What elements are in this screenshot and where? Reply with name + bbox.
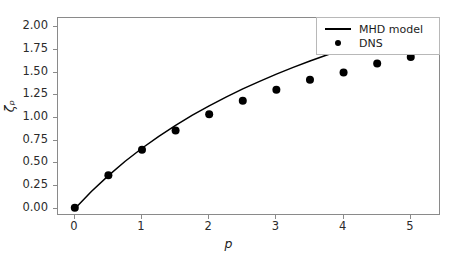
dot-swatch-icon [323, 40, 353, 47]
legend-label-mhd-model: MHD model [353, 24, 423, 35]
y-tick-mark [53, 140, 57, 141]
y-tick-label: 1.50 [22, 66, 48, 78]
y-tick-label: 2.00 [22, 20, 48, 32]
x-tick-label: 0 [59, 221, 89, 233]
y-tick-label: 0.00 [22, 202, 48, 214]
y-tick-mark [53, 26, 57, 27]
y-tick-mark [53, 49, 57, 50]
dns-point [272, 86, 280, 94]
y-axis-label: ζₚ [4, 100, 17, 112]
chart-figure: 0.000.250.500.751.001.251.501.752.00 012… [0, 0, 457, 265]
y-tick-mark [53, 94, 57, 95]
x-tick-label: 4 [328, 221, 358, 233]
y-tick-mark [53, 162, 57, 163]
chart-legend: MHD model DNS [316, 17, 440, 55]
legend-label-dns: DNS [353, 38, 383, 49]
x-axis-label: p [0, 238, 457, 251]
mhd-model-curve [75, 29, 411, 209]
dns-point [104, 171, 112, 179]
legend-item-mhd-model: MHD model [323, 22, 432, 36]
line-swatch-icon [323, 28, 353, 30]
y-tick-label: 0.50 [22, 156, 48, 168]
x-tick-label: 5 [395, 221, 425, 233]
y-tick-mark [53, 185, 57, 186]
x-tick-label: 3 [260, 221, 290, 233]
dns-point [205, 110, 213, 118]
y-tick-mark [53, 117, 57, 118]
dns-data-markers [71, 53, 415, 212]
dns-point [138, 146, 146, 154]
y-tick-label: 0.25 [22, 179, 48, 191]
y-tick-label: 0.75 [22, 134, 48, 146]
dns-point [340, 69, 348, 77]
y-tick-label: 1.75 [22, 43, 48, 55]
dns-point [306, 76, 314, 84]
dns-point [373, 59, 381, 67]
y-tick-label: 1.25 [22, 88, 48, 100]
y-tick-mark [53, 72, 57, 73]
y-tick-label: 1.00 [22, 111, 48, 123]
dns-point [172, 127, 180, 135]
dns-point [239, 97, 247, 105]
legend-item-dns: DNS [323, 36, 432, 50]
x-tick-label: 1 [126, 221, 156, 233]
x-tick-label: 2 [193, 221, 223, 233]
dns-point [71, 204, 79, 212]
y-tick-mark [53, 208, 57, 209]
